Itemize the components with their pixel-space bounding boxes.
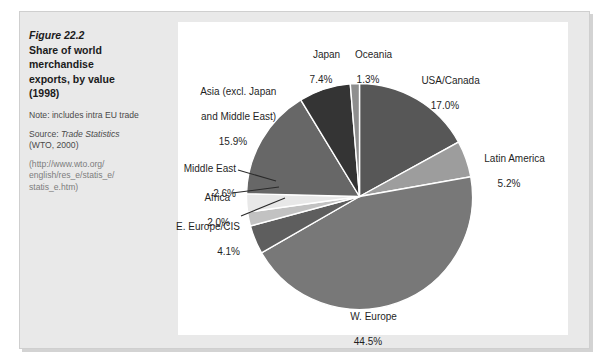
figure-caption: Figure 22.2 Share of world merchandise e… bbox=[29, 28, 155, 194]
source-url-line-3: statis_e.htm) bbox=[29, 182, 78, 192]
figure-note-line-2: trade bbox=[119, 110, 139, 120]
source-line-2: (WTO, 2000) bbox=[29, 140, 79, 150]
pie-label-latin-america-name: Latin America bbox=[484, 153, 545, 164]
pie-label-middle-east-name: Middle East bbox=[184, 163, 236, 174]
pie-label-usa-canada-name: USA/Canada bbox=[421, 75, 479, 86]
figure-title-line-1: Share of world bbox=[29, 44, 102, 56]
pie-label-w-europe-name: W. Europe bbox=[350, 311, 397, 322]
pie-label-japan: Japan 7.4% bbox=[297, 37, 345, 111]
pie-label-africa-name: Africa bbox=[204, 192, 230, 203]
pie-label-oceania: Oceania 1.3% bbox=[340, 37, 396, 111]
figure-source-url: (http://www.wto.org/ english/res_e/stati… bbox=[29, 159, 155, 194]
figure-note: Note: includes intra EU trade bbox=[29, 110, 155, 122]
figure-title-line-2: merchandise bbox=[29, 58, 94, 70]
figure-source: Source: Trade Statistics (WTO, 2000) bbox=[29, 129, 155, 152]
pie-label-e-europe-cis-value: 4.1% bbox=[152, 246, 240, 258]
pie-label-asia-name-2: and Middle East) bbox=[201, 111, 276, 122]
pie-label-oceania-value: 1.3% bbox=[340, 74, 396, 86]
source-url-line-1: (http://www.wto.org/ bbox=[29, 159, 104, 169]
pie-label-japan-value: 7.4% bbox=[297, 74, 345, 86]
pie-label-japan-name: Japan bbox=[313, 49, 340, 60]
figure-root: Figure 22.2 Share of world merchandise e… bbox=[0, 0, 605, 361]
pie-label-asia-name-1: Asia (excl. Japan bbox=[200, 86, 276, 97]
figure-number: Figure 22.2 bbox=[29, 29, 84, 41]
pie-label-asia-value: 15.9% bbox=[181, 136, 285, 148]
source-title: Trade Statistics bbox=[61, 129, 120, 139]
figure-title-line-4: (1998) bbox=[29, 87, 59, 99]
pie-label-e-europe-cis-name: E. Europe/CIS bbox=[176, 221, 240, 232]
pie-label-latin-america-value: 5.2% bbox=[463, 178, 555, 190]
source-prefix: Source: bbox=[29, 129, 61, 139]
pie-label-latin-america: Latin America 5.2% bbox=[463, 141, 555, 215]
pie-label-usa-canada: USA/Canada 17.0% bbox=[406, 63, 484, 137]
figure-note-line-1: Note: includes intra EU bbox=[29, 110, 117, 120]
figure-title-line-3: exports, by value bbox=[29, 73, 115, 85]
pie-label-w-europe: W. Europe 44.5% bbox=[331, 299, 405, 361]
pie-label-w-europe-value: 44.5% bbox=[331, 336, 405, 348]
figure-title: Figure 22.2 Share of world merchandise e… bbox=[29, 28, 155, 101]
pie-label-oceania-name: Oceania bbox=[355, 49, 392, 60]
pie-label-e-europe-cis: E. Europe/CIS 4.1% bbox=[152, 209, 240, 283]
source-url-line-2: english/res_e/statis_e/ bbox=[29, 170, 115, 180]
pie-label-usa-canada-value: 17.0% bbox=[406, 100, 484, 112]
